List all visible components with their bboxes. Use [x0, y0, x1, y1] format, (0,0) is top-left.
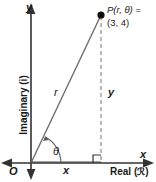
real-axis-label: Real (ℛ): [110, 167, 149, 177]
horizontal-leg-label: x: [63, 165, 69, 176]
point-p-label: P(r, θ) = (3, 4): [107, 5, 141, 27]
angle-theta-label: θ: [53, 146, 59, 157]
radius-label: r: [54, 87, 58, 98]
point-p-marker: [97, 11, 104, 18]
imaginary-axis-label: Imaginary (i): [19, 53, 29, 157]
x-axis-tip-label: x: [140, 149, 146, 160]
polar-complex-plane-figure: y x O Imaginary (i) Real (ℛ) P(r, θ) = (…: [0, 0, 156, 182]
y-axis-tip-label: y: [26, 2, 32, 13]
imaginary-axis-arrow-down: [27, 169, 36, 180]
vertical-leg-label: y: [108, 87, 114, 98]
point-p-label-line1: P(r, θ) =: [107, 4, 141, 15]
origin-label: O: [9, 166, 18, 177]
radius-segment: [31, 15, 101, 163]
point-p-label-line2: (3, 4): [107, 18, 141, 28]
